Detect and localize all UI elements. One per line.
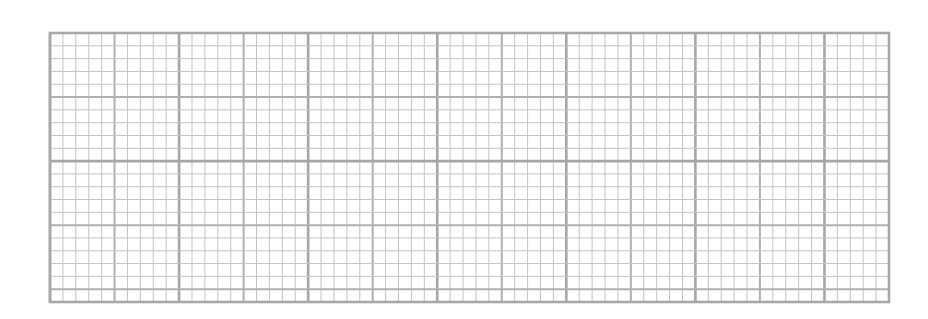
grid-border xyxy=(50,33,889,302)
graph-paper-grid xyxy=(0,0,928,319)
